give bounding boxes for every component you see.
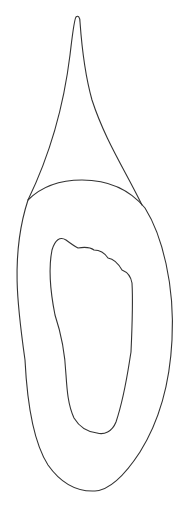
- inner-foot-outline: [50, 238, 133, 433]
- spire-outline: [28, 16, 142, 205]
- outer-oval-outline: [17, 180, 172, 491]
- foot-outline-diagram: [0, 0, 191, 508]
